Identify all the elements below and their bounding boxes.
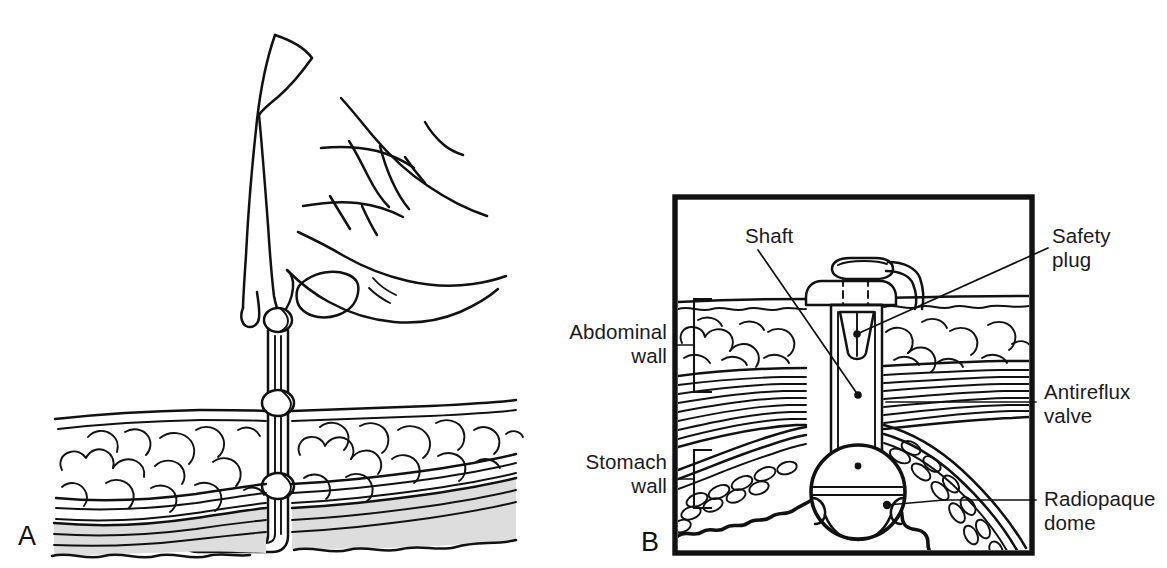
medical-illustration-svg: A	[0, 0, 1167, 568]
label-antireflux-valve-line1: Antireflux	[1044, 380, 1131, 403]
label-radiopaque-dome-line1: Radiopaque	[1044, 487, 1156, 510]
figure-root: A	[0, 0, 1167, 568]
tube-bulb-lower	[262, 473, 294, 499]
label-safety-plug-line1: Safety	[1052, 224, 1111, 247]
b-radiopaque-dome	[811, 445, 905, 540]
label-abdominal-wall-line2: wall	[630, 344, 667, 367]
tube-bulb-middle-shape	[262, 390, 294, 416]
label-shaft: Shaft	[745, 224, 794, 247]
panel-a-letter: A	[18, 521, 36, 551]
panel-b-letter: B	[641, 527, 659, 557]
tube-bulb-top	[264, 308, 292, 332]
tube-bulb-middle	[262, 390, 294, 416]
label-safety-plug-line2: plug	[1052, 248, 1091, 271]
label-stomach-wall-line1: Stomach	[585, 450, 667, 473]
label-radiopaque-dome-line2: dome	[1044, 511, 1096, 534]
label-stomach-wall-line2: wall	[630, 474, 667, 497]
antireflux-anchor-dot	[855, 463, 862, 470]
tube-bulb-lower-shape	[262, 473, 294, 499]
figure-background	[0, 0, 1167, 568]
b-plug-flange	[806, 281, 896, 305]
label-antireflux-valve-line2: valve	[1044, 404, 1092, 427]
label-abdominal-wall-line1: Abdominal	[569, 320, 667, 343]
b-dome-sphere	[811, 445, 905, 539]
